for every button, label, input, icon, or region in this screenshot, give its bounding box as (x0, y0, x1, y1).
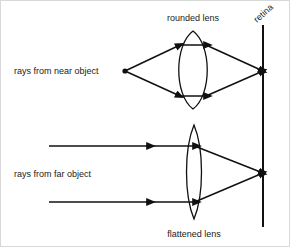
near-ray-upper-incident (125, 45, 180, 71)
near-ray-upper-refracted (206, 45, 263, 71)
far-ray-lower-refracted (197, 173, 263, 201)
optics-canvas: retina rounded lens rays from near objec… (1, 1, 290, 247)
rays-from-near-object-label: rays from near object (14, 66, 99, 76)
retina-label: retina (252, 2, 275, 24)
flattened-lens-label: flattened lens (167, 229, 221, 239)
rounded-lens-shape (179, 31, 208, 109)
far-focus-point (260, 170, 266, 176)
near-focus-point (260, 68, 266, 74)
rounded-lens-label: rounded lens (167, 13, 220, 23)
near-ray-lower-incident (125, 71, 180, 96)
flattened-lens-shape (187, 125, 202, 219)
far-ray-upper-refracted (197, 147, 263, 173)
optics-diagram: retina rounded lens rays from near objec… (0, 0, 290, 247)
near-ray-lower-refracted (206, 71, 263, 96)
rays-from-far-object-label: rays from far object (14, 169, 92, 179)
